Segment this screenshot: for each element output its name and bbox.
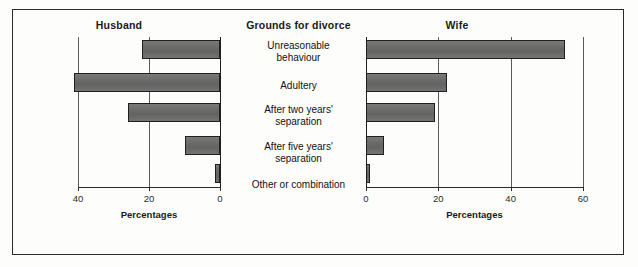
tick-20 [438, 187, 439, 191]
category-label-line: Other or combination [252, 179, 345, 190]
wife-panel-title: Wife [343, 19, 571, 31]
tick-label-20: 20 [134, 193, 164, 204]
gridline-40 [511, 37, 512, 187]
tick-label-20: 20 [423, 193, 453, 204]
tick-label-60: 60 [568, 193, 598, 204]
tick-label-0: 0 [351, 193, 381, 204]
bar-wife-2 [366, 103, 435, 122]
tick-label-40: 40 [496, 193, 526, 204]
bar-husband-3 [185, 136, 221, 155]
tick-20 [149, 187, 150, 191]
category-label-line: After five years' [264, 141, 333, 152]
bar-wife-3 [366, 136, 384, 155]
bar-husband-2 [128, 103, 220, 122]
x-axis-line [366, 187, 583, 188]
bar-wife-1 [366, 73, 447, 92]
category-label-line: Unreasonable [267, 40, 329, 51]
category-label-line: After two years' [264, 104, 333, 115]
husband-axis-title: Percentages [78, 209, 220, 220]
husband-panel-title: Husband [13, 19, 225, 31]
bar-wife-4 [366, 164, 370, 183]
wife-panel: Wife 0204060 Percentages [343, 10, 625, 254]
husband-panel: Husband 40200 Percentages [13, 10, 249, 254]
husband-plot-area: 40200 [78, 37, 220, 187]
category-label-line: separation [275, 153, 322, 164]
category-label-line: separation [275, 116, 322, 127]
tick-label-40: 40 [63, 193, 93, 204]
wife-axis-title: Percentages [366, 209, 583, 220]
chart-frame: Husband 40200 Percentages Grounds for di… [12, 9, 624, 255]
category-label-line: behaviour [277, 52, 321, 63]
zero-axis-line [220, 37, 221, 187]
tick-60 [583, 187, 584, 191]
tick-40 [511, 187, 512, 191]
bar-husband-4 [215, 164, 220, 183]
gridline-60 [583, 37, 584, 187]
bar-wife-0 [366, 40, 565, 59]
tick-40 [78, 187, 79, 191]
wife-plot-area: 0204060 [366, 37, 583, 187]
gridline-20 [438, 37, 439, 187]
bar-husband-1 [74, 73, 220, 92]
bar-husband-0 [142, 40, 220, 59]
category-label-line: Adultery [280, 80, 317, 91]
tick-0 [366, 187, 367, 191]
tick-0 [220, 187, 221, 191]
gridline-40 [78, 37, 79, 187]
